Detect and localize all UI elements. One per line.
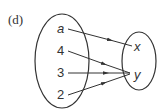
range-element-y: y (133, 67, 142, 82)
arrow-4-to-y (68, 51, 104, 64)
arrow-4-to-y-tail (104, 64, 130, 73)
figure-label: (d) (8, 12, 23, 27)
arrow-2-to-y (68, 83, 104, 95)
arrow-2-to-y-tail (104, 74, 130, 83)
domain-element-3: 3 (57, 65, 64, 80)
domain-element-4: 4 (57, 43, 64, 58)
arrow-a-to-x-tail (110, 40, 132, 46)
arrow-a-to-x (68, 29, 110, 40)
domain-element-a: a (57, 21, 64, 36)
domain-element-2: 2 (57, 87, 64, 102)
range-element-x: x (133, 39, 141, 54)
mapping-diagram: (d) a 4 3 2 x y (0, 0, 164, 110)
